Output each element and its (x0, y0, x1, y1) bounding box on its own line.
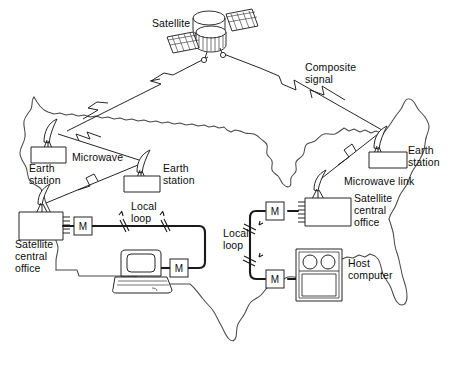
sco-left-label-line1: Satellite (15, 239, 53, 251)
modem-label: M (271, 206, 279, 217)
earth-station-mid-label-line2: station (163, 175, 195, 187)
modem-label: M (271, 274, 279, 285)
local-loop-right-label-line2: loop (223, 240, 243, 252)
earth-station-left-label-line1: Earth (29, 163, 55, 175)
local-loop-left-label-line1: Local (131, 201, 157, 213)
modem-right-2: M (266, 270, 284, 288)
microwave-label: Microwave (72, 152, 123, 164)
host-computer (296, 249, 342, 301)
earth-station-mid-label-line1: Earth (163, 163, 189, 175)
microwave-beams (46, 132, 378, 203)
earth-station-right-label-line2: station (408, 157, 440, 169)
local-loop-left-label-line2: loop (131, 213, 151, 225)
sco-left-label-line2: central (15, 251, 47, 263)
sco-right-label-line2: central (354, 205, 386, 217)
earth-station-mid (124, 150, 160, 192)
satellite-network-diagram: M M M M (0, 0, 452, 375)
local-loop-right-label-line1: Local (223, 228, 249, 240)
host-computer-label-line1: Host (348, 258, 370, 270)
earth-station-left-label-line2: station (29, 175, 61, 187)
satellite-central-office-left (19, 184, 70, 240)
microwave-zigzag-2 (78, 174, 98, 190)
composite-signal-label-line1: Composite (305, 62, 356, 74)
earth-station-right-label-line1: Earth (408, 145, 434, 157)
modem-right-1: M (266, 202, 284, 220)
satellite-label: Satellite (152, 18, 190, 30)
modem-left-2: M (170, 259, 188, 277)
modem-label: M (175, 263, 183, 274)
modem-left-1: M (74, 217, 92, 235)
sco-left-label-line3: office (15, 263, 41, 275)
sco-right-label-line1: Satellite (354, 193, 392, 205)
zigzag-right-a (310, 86, 345, 100)
sco-right-label-line3: office (354, 217, 380, 229)
microwave-zigzag-1 (76, 132, 101, 141)
diagram-canvas: M M M M (0, 0, 452, 375)
zigzag-left-a (150, 79, 160, 81)
local-loop-right-cable (250, 211, 298, 279)
microwave-link-label: Microwave link (344, 176, 414, 188)
signal-path-right (221, 53, 382, 130)
host-computer-label-line2: computer (348, 270, 393, 282)
earth-station-left (31, 119, 66, 163)
microwave-zigzag-3 (338, 144, 356, 165)
signal-path-left (67, 57, 208, 131)
modem-label: M (79, 221, 87, 232)
composite-signal-label-line2: signal (305, 74, 333, 86)
terminal-workstation (113, 250, 172, 293)
earth-station-right (369, 126, 407, 168)
